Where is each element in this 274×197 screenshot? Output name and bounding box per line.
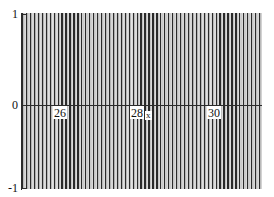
y-tick-mark-1 bbox=[22, 14, 26, 15]
y-tick-label-1: 1 bbox=[0, 8, 18, 20]
sine-curve-svg bbox=[0, 0, 274, 197]
x-tick-label-28: 28 bbox=[130, 106, 144, 119]
sine-curve-strokes bbox=[22, 13, 262, 189]
y-axis-line bbox=[21, 13, 22, 190]
sine-curve bbox=[0, 0, 274, 197]
x-tick-label-26: 26 bbox=[53, 106, 67, 119]
y-tick-label-0: 0 bbox=[0, 99, 18, 111]
y-tick-label-minus1: -1 bbox=[0, 182, 18, 194]
x-axis-label: x bbox=[145, 111, 152, 120]
y-tick-mark-minus1 bbox=[22, 188, 26, 189]
x-tick-label-30: 30 bbox=[207, 106, 221, 119]
plot-root: 1 0 -1 26 28 30 x bbox=[0, 0, 274, 197]
